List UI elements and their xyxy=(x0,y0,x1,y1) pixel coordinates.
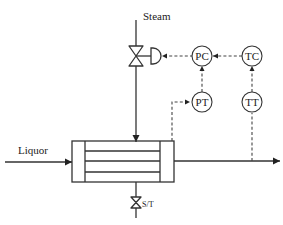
steam-stream: Steam xyxy=(136,10,171,46)
tt-label: TT xyxy=(245,96,259,108)
pt-transmitter[interactable]: PT xyxy=(192,92,212,112)
tc-controller[interactable]: TC xyxy=(242,46,262,66)
pt-label: PT xyxy=(196,96,209,108)
steam-trap[interactable]: S/T xyxy=(131,182,154,218)
heat-exchanger[interactable] xyxy=(72,141,174,182)
liquor-label: Liquor xyxy=(18,144,48,156)
diaphragm-actuator-icon xyxy=(151,48,161,64)
pc-label: PC xyxy=(195,50,208,62)
trap-valve-icon xyxy=(131,197,141,208)
tc-label: TC xyxy=(245,50,259,62)
process-diagram: Steam Liquor S/T PC xyxy=(0,0,283,225)
steam-control-valve[interactable] xyxy=(129,46,161,66)
liquor-inlet: Liquor xyxy=(5,144,72,162)
pc-controller[interactable]: PC xyxy=(192,46,212,66)
tt-transmitter[interactable]: TT xyxy=(242,92,262,112)
steam-trap-label: S/T xyxy=(142,200,154,209)
steam-label: Steam xyxy=(143,10,171,22)
shell-pressure-tap xyxy=(172,102,190,141)
